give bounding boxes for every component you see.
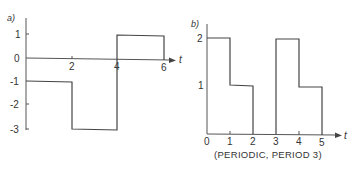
panel-a-ytick-label: 1 [15,29,21,40]
panel-b-caption: (PERIODIC, PERIOD 3) [214,149,322,160]
panel-b-xtick-label: 4 [296,136,302,147]
panel-a-x-arrow-icon [169,58,176,64]
panel-b-x-label: t [344,130,348,141]
panel-b: b) t 2 1 0 1 2 3 4 5 (PERIODIC, PERIOD 3… [191,19,348,160]
panel-b-label: b) [191,19,199,29]
panel-b-xtick-label: 0 [204,136,210,147]
panel-a-ytick-label: -1 [10,76,19,87]
panel-a-x-label: t [179,54,183,65]
panel-a-ytick-label: 0 [14,53,20,64]
panel-a-signal [26,35,164,130]
panel-b-ytick-label: 2 [197,33,203,44]
panel-a-xtick-label: 2 [69,61,75,72]
panel-a-ytick-label: -3 [10,124,19,135]
panel-b-xtick-label: 5 [319,137,325,148]
panel-b-xtick-label: 3 [273,136,279,147]
panel-b-xtick-label: 2 [250,136,256,147]
panel-b-x-arrow-icon [335,133,342,139]
panel-b-xtick-label: 1 [227,136,233,147]
panel-b-signal-period-2 [276,39,322,135]
panel-a-ytick-label: -2 [10,99,19,110]
panel-a-xtick-label: 6 [161,62,167,73]
panel-b-x-axis [207,134,336,135]
figure: a) t 1 0 -1 -2 -3 2 4 6 b) t 2 1 [0,0,357,170]
panel-a-x-axis [26,58,170,60]
panel-b-ytick-label: 1 [198,80,204,91]
panel-a: a) t 1 0 -1 -2 -3 2 4 6 [7,13,183,135]
panel-a-label: a) [7,13,15,23]
panel-b-signal-period-1 [207,38,253,134]
